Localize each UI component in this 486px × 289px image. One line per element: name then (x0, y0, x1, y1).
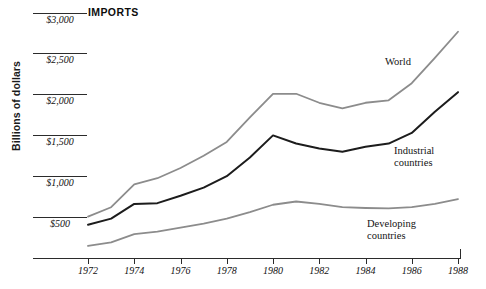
x-axis-tick-label: 1976 (158, 265, 204, 276)
x-axis-right-cap (460, 249, 461, 259)
x-axis-tick-mark (366, 258, 367, 264)
x-axis-tick-label: 1986 (389, 265, 435, 276)
x-axis-tick-mark (319, 258, 320, 264)
x-axis-tick-label: 1972 (65, 265, 111, 276)
imports-line-chart: Billions of dollars IMPORTS $500$1,000$1… (0, 0, 486, 289)
x-axis-tick-mark (88, 258, 89, 264)
series-label-industrial-line2: countries (394, 157, 433, 168)
x-axis-tick-mark (227, 258, 228, 264)
series-label-developing-countries: Developingcountries (367, 218, 416, 241)
x-axis-tick-mark (273, 258, 274, 264)
x-axis-tick-label: 1988 (435, 265, 481, 276)
x-axis-tick-label: 1984 (343, 265, 389, 276)
x-axis-tick-label: 1974 (111, 265, 157, 276)
series-label-industrial-countries: Industrialcountries (394, 145, 434, 168)
series-label-developing-line2: countries (367, 230, 406, 241)
x-axis-tick-label: 1982 (296, 265, 342, 276)
x-axis-tick-mark (458, 258, 459, 264)
series-label-developing-line1: Developing (367, 218, 416, 229)
x-axis-tick-mark (134, 258, 135, 264)
series-label-industrial-line1: Industrial (394, 145, 434, 156)
x-axis-tick-label: 1980 (250, 265, 296, 276)
x-axis-tick-label: 1978 (204, 265, 250, 276)
x-axis-line (33, 258, 461, 259)
x-axis-tick-mark (412, 258, 413, 264)
x-axis-tick-mark (181, 258, 182, 264)
series-label-world: World (385, 56, 411, 68)
